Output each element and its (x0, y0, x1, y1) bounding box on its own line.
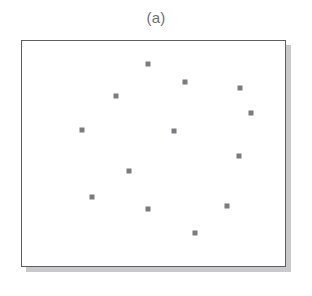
scatter-point (225, 204, 230, 209)
scatter-point (238, 86, 243, 91)
figure-caption: (a) (0, 9, 312, 27)
scatter-point (80, 128, 85, 133)
scatter-point (249, 111, 254, 116)
scatter-point (114, 94, 119, 99)
scatter-point (90, 195, 95, 200)
scatter-point (146, 62, 151, 67)
scatter-point (146, 207, 151, 212)
scatter-point (183, 80, 188, 85)
scatter-point (127, 169, 132, 174)
scatter-point (237, 154, 242, 159)
figure-panel: (a) (0, 0, 312, 296)
scatter-point (193, 231, 198, 236)
scatter-plot-area (22, 41, 285, 266)
plot-frame (21, 40, 286, 267)
scatter-point (172, 129, 177, 134)
